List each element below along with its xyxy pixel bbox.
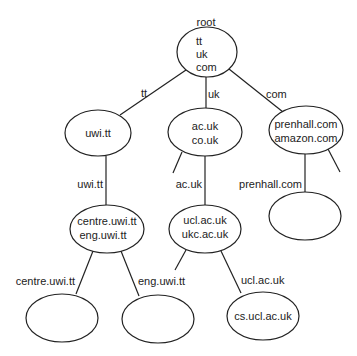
node-acuk: ac.uk co.uk xyxy=(168,108,242,156)
node-ucl-line-1: ucl.ac.uk xyxy=(183,214,227,226)
edge-root-uwi xyxy=(120,70,186,115)
node-cs-line-1: cs.ucl.ac.uk xyxy=(234,310,292,322)
node-prenhall-child xyxy=(269,192,341,240)
node-root-line-2: uk xyxy=(196,48,208,60)
edge-label-centre: centre.uwi.tt xyxy=(16,275,75,287)
node-com-line-1: prenhall.com xyxy=(275,118,338,130)
node-root: tt uk com xyxy=(177,27,237,77)
edge-centre-right xyxy=(121,251,139,296)
node-centre: centre.uwi.tt eng.uwi.tt xyxy=(70,205,144,253)
edge-label-com: com xyxy=(266,88,287,100)
node-eng-child xyxy=(122,295,194,343)
node-com-line-2: amazon.com xyxy=(275,132,338,144)
edge-label-tt: tt xyxy=(141,87,147,99)
edge-label-prenhall: prenhall.com xyxy=(239,178,302,190)
edge-centre-left xyxy=(76,251,93,294)
node-uwi-line-1: uwi.tt xyxy=(85,127,111,139)
root-label: root xyxy=(197,16,216,28)
node-root-line-3: com xyxy=(196,61,217,73)
node-centre-child xyxy=(26,294,98,342)
node-ucl-line-2: ukc.ac.uk xyxy=(182,228,229,240)
node-cs: cs.ucl.ac.uk xyxy=(227,292,299,340)
node-acuk-line-1: ac.uk xyxy=(192,120,219,132)
node-ucl: ucl.ac.uk ukc.ac.uk xyxy=(169,205,241,253)
edge-label-uwi: uwi.tt xyxy=(77,178,103,190)
edge-label-acuk: ac.uk xyxy=(176,178,203,190)
edge-label-ucl: ucl.ac.uk xyxy=(241,274,285,286)
edge-label-uk: uk xyxy=(208,88,220,100)
node-com: prenhall.com amazon.com xyxy=(269,106,343,154)
node-centre-line-2: eng.uwi.tt xyxy=(79,229,126,241)
edge-acuk-stub xyxy=(173,152,182,173)
node-uwi: uwi.tt xyxy=(65,110,131,156)
edge-label-eng: eng.uwi.tt xyxy=(138,275,185,287)
edge-ucl-stub xyxy=(175,250,186,270)
edge-ucl-cs xyxy=(221,251,241,293)
node-centre-line-1: centre.uwi.tt xyxy=(77,215,136,227)
edge-com-stub xyxy=(328,149,340,172)
node-root-line-1: tt xyxy=(196,35,202,47)
name-server-tree-diagram: tt uk com root uwi.tt ac.uk co.uk prenha… xyxy=(0,0,357,356)
node-acuk-line-2: co.uk xyxy=(192,134,219,146)
